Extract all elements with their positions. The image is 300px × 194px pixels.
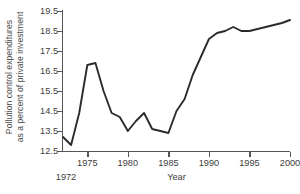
data-series-layer <box>0 0 300 194</box>
data-line-series <box>63 20 290 145</box>
line-chart: Pollution control expenditures as a perc… <box>0 0 300 194</box>
